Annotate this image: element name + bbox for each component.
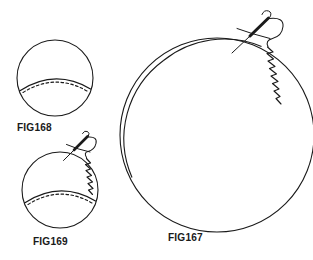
fig169-thread-tail [83, 131, 90, 136]
fig167-fabric-circle-outer [120, 38, 313, 232]
illustration-page: FIG168 FIG169 FIG167 [0, 0, 313, 260]
fig169-thread-loop [85, 137, 96, 158]
figure-167-group [120, 11, 313, 232]
fig167-thread-tail [262, 11, 271, 17]
fig168-caption: FIG168 [17, 121, 52, 133]
fig167-caption: FIG167 [168, 231, 203, 243]
fig167-whip-stitch [267, 47, 281, 104]
fig169-whip-stitch [86, 159, 94, 195]
fig168-fabric-circle [17, 40, 93, 116]
fig169-needle-tip [64, 150, 75, 161]
fig168-gather-arc [20, 79, 91, 91]
fig167-thread-loop [267, 18, 283, 46]
fig167-needle-tip [232, 36, 250, 53]
figure-168-group [17, 40, 93, 116]
fig167-needle-pierce-line [237, 29, 270, 39]
fig169-fabric-circle [22, 152, 98, 228]
fig167-fabric-fold-inner [124, 39, 262, 177]
figure-169-group [22, 131, 98, 228]
fig169-gather-arc [25, 191, 96, 203]
fig169-caption: FIG169 [33, 235, 68, 247]
